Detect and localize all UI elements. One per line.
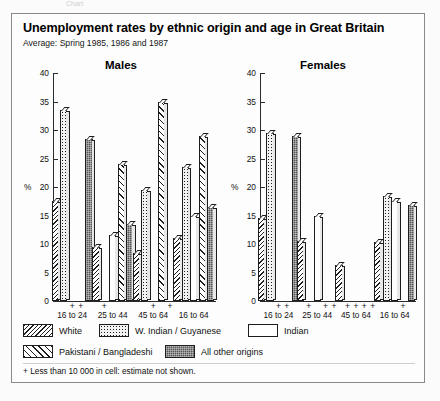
page-subtitle: Average: Spring 1985, 1986 and 1987 [23,38,168,48]
missing-data-plus-marker: + [353,303,358,310]
bar-group-males-16-to-24 [52,73,93,301]
missing-data-plus-marker: + [401,303,406,310]
bar-females-white-25-to-44 [297,241,304,301]
missing-data-plus-marker: + [306,303,311,310]
missing-data-plus-marker: + [370,303,375,310]
missing-data-plus-marker: + [331,303,336,310]
bar-females-west-indian-16-to-64 [383,196,390,301]
missing-data-plus-marker: + [362,303,367,310]
x-axis-label-females-45-to-64: 45 to 64 [341,310,371,320]
legend-label-white: White [59,326,82,336]
x-axis-label-males-25-to-44: 25 to 44 [98,310,128,320]
x-axis-label-females-16-to-24: 16 to 24 [263,310,293,320]
legend-label-pakistani: Pakistani / Bangladeshi [59,347,153,357]
bar-females-indian-16-to-64 [391,201,398,301]
footnote-divider [23,363,415,364]
x-axis-label-females-16-to-64: 16 to 64 [380,310,410,320]
legend-row-1: White W. Indian / Guyanese Indian [23,324,415,345]
bar-females-west-indian-16-to-24 [266,133,273,301]
legend-swatch-indian-icon [248,324,278,337]
bar-group-males-25-to-44 [92,73,133,301]
missing-data-plus-marker: + [345,303,350,310]
y-axis-label-percent: % [24,182,31,192]
missing-data-plus-marker: + [168,303,173,310]
bar-males-all-other-16-to-64 [207,207,214,301]
bar-side-face [164,103,167,301]
legend-label-indian: Indian [284,326,309,336]
legend-item-indian: Indian [248,324,309,337]
bar-side-face [303,242,306,300]
legend-swatch-west-indian-icon [99,324,129,337]
bar-males-west-indian-45-to-64 [141,190,148,301]
bar-side-face [66,111,69,300]
page-root: Chart Unemployment rates by ethnic origi… [0,0,440,401]
y-tick-mark [261,301,265,302]
bar-side-face [99,248,102,300]
bar-side-face [342,266,345,300]
chart-panel-males: Males 0510152025303540%++16 to 24+25 to … [21,57,221,315]
bar-females-white-45-to-64 [335,265,342,301]
missing-data-plus-marker: + [70,303,75,310]
bar-males-indian-25-to-44 [109,235,116,301]
legend-item-other: All other origins [165,345,263,358]
bar-group-males-16-to-64 [173,73,214,301]
missing-data-plus-marker: + [78,303,83,310]
chart-legend: White W. Indian / Guyanese Indian Pakist… [23,324,415,366]
legend-item-white: White [23,324,82,337]
bar-males-white-25-to-44 [92,247,99,301]
legend-label-west-indian: W. Indian / Guyanese [135,326,221,336]
legend-swatch-pakistani-icon [23,345,53,358]
bar-side-face [213,208,216,300]
bar-males-pakistani-25-to-44 [118,164,125,301]
bar-side-face [147,191,150,300]
bar-males-white-45-to-64 [133,253,140,301]
bar-males-west-indian-16-to-24 [60,110,67,301]
missing-data-plus-marker: + [276,303,281,310]
legend-item-pakistani: Pakistani / Bangladeshi [23,345,153,358]
bar-group-females-45-to-64 [335,73,376,301]
bar-males-white-16-to-64 [173,238,180,301]
bar-side-face [397,202,400,300]
legend-label-other: All other origins [201,347,263,357]
footnote-text: + Less than 10 000 in cell: estimate not… [23,366,196,376]
page-title: Unemployment rates by ethnic origin and … [23,21,384,35]
bar-males-west-indian-16-to-64 [182,167,189,301]
x-axis-label-males-45-to-64: 45 to 64 [138,310,168,320]
bar-males-white-16-to-24 [52,201,59,301]
y-axis-label-percent: % [231,182,238,192]
x-axis-label-females-25-to-44: 25 to 44 [302,310,332,320]
plot-area-males: 0510152025303540%++16 to 24+25 to 44++45… [53,73,216,302]
missing-data-plus-marker: + [284,303,289,310]
bar-females-indian-25-to-44 [314,216,321,302]
legend-swatch-other-icon [165,345,195,358]
bar-females-white-16-to-64 [374,242,381,301]
bar-females-white-16-to-24 [258,218,265,301]
y-tick-mark [54,301,58,302]
bar-side-face [414,206,417,300]
missing-data-plus-marker: + [323,303,328,310]
bar-males-pakistani-16-to-64 [199,136,206,301]
cut-off-text-above-figure: Chart [66,0,186,8]
bar-group-females-16-to-24 [258,73,299,301]
x-axis-label-males-16-to-24: 16 to 24 [57,310,87,320]
bar-group-females-16-to-64 [374,73,415,301]
bar-males-indian-16-to-64 [190,216,197,302]
legend-swatch-white-icon [23,324,53,337]
missing-data-plus-marker: + [151,303,156,310]
legend-item-west-indian: W. Indian / Guyanese [99,324,221,337]
bar-females-all-other-16-to-64 [408,205,415,301]
bar-group-females-25-to-44 [297,73,338,301]
bar-side-face [273,134,276,300]
bar-group-males-45-to-64 [133,73,174,301]
plot-area-females: 0510152025303540%++16 to 24+++25 to 44++… [260,73,416,302]
x-axis-label-males-16-to-64: 16 to 64 [179,310,209,320]
chart-panel-females: Females 0510152025303540%++16 to 24+++25… [228,57,418,315]
figure-card: Unemployment rates by ethnic origin and … [11,13,425,383]
bar-males-pakistani-45-to-64 [158,102,165,302]
bar-side-face [320,217,323,301]
missing-data-plus-marker: + [102,303,107,310]
